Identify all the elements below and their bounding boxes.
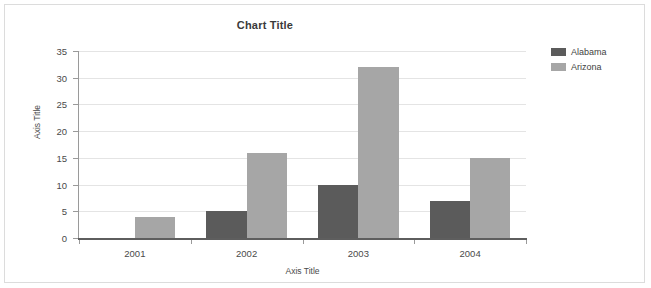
gridline	[79, 131, 526, 132]
x-axis-tick-label: 2002	[217, 248, 277, 259]
bar-arizona-2003	[358, 67, 398, 238]
y-axis-tick	[73, 78, 78, 79]
chart-title: Chart Title	[5, 19, 525, 31]
bar-arizona-2001	[135, 217, 175, 238]
bar-arizona-2004	[470, 158, 510, 238]
legend-swatch-icon	[551, 63, 566, 71]
y-axis-tick-label: 5	[41, 206, 67, 217]
y-axis-tick-label: 20	[41, 126, 67, 137]
y-axis-tick-label: 10	[41, 179, 67, 190]
y-axis-tick	[73, 104, 78, 105]
y-axis-tick-label: 0	[41, 233, 67, 244]
y-axis-tick-label: 35	[41, 46, 67, 57]
y-axis-tick	[73, 211, 78, 212]
bar-alabama-2002	[206, 211, 246, 238]
x-axis-tick	[526, 240, 527, 244]
gridline	[79, 51, 526, 52]
y-axis-tick-label: 25	[41, 99, 67, 110]
gridline	[79, 78, 526, 79]
gridline	[79, 104, 526, 105]
bar-alabama-2003	[318, 185, 358, 238]
y-axis-tick-labels: 05101520253035	[41, 5, 67, 288]
x-axis-tick	[191, 240, 192, 244]
legend-item-arizona[interactable]: Arizona	[551, 60, 639, 73]
legend-label: Arizona	[571, 62, 602, 72]
x-axis-tick-label: 2003	[328, 248, 388, 259]
y-axis-tick-label: 15	[41, 152, 67, 163]
plot-area	[79, 51, 526, 238]
gridline	[79, 185, 526, 186]
chart-legend: AlabamaArizona	[551, 45, 639, 75]
y-axis-tick	[73, 238, 78, 239]
chart-frame: Chart Title 05101520253035 Axis Title Ax…	[4, 4, 645, 283]
x-axis-title: Axis Title	[79, 266, 526, 276]
y-axis-tick	[73, 185, 78, 186]
bar-alabama-2004	[430, 201, 470, 238]
y-axis-title: Axis Title	[32, 82, 42, 162]
y-axis-tick-label: 30	[41, 72, 67, 83]
legend-label: Alabama	[571, 47, 607, 57]
y-axis-tick	[73, 158, 78, 159]
x-axis-tick	[79, 240, 80, 244]
gridline	[79, 158, 526, 159]
x-axis-tick-label: 2004	[440, 248, 500, 259]
legend-item-alabama[interactable]: Alabama	[551, 45, 639, 58]
x-axis-tick-label: 2001	[105, 248, 165, 259]
y-axis-tick	[73, 51, 78, 52]
x-axis-tick	[414, 240, 415, 244]
x-axis-tick	[303, 240, 304, 244]
y-axis-tick	[73, 131, 78, 132]
legend-swatch-icon	[551, 48, 566, 56]
bar-arizona-2002	[247, 153, 287, 238]
